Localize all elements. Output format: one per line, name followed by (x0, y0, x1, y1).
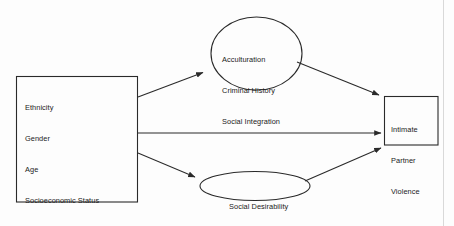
outcome-item-partner: Partner (391, 156, 420, 166)
mediator-top-item-criminal-history: Criminal History (222, 86, 280, 96)
mediator-bottom-label-group: Social Desirability (229, 181, 288, 226)
predictor-item-gender: Gender (25, 134, 106, 144)
diagram-canvas: Ethnicity Gender Age Socioeconomic Statu… (0, 0, 454, 226)
predictor-item-ethnicity: Ethnicity (25, 103, 106, 113)
outcome-item-violence: Violence (391, 187, 420, 197)
predictor-item-socioeconomic-status: Socioeconomic Status (25, 196, 106, 206)
mediator-top-item-social-integration: Social Integration (222, 117, 280, 127)
outcome-item-intimate: Intimate (391, 125, 420, 135)
arrow-predictors-to-bottom-mediator (138, 153, 195, 177)
arrow-predictors-to-top-mediator (138, 73, 203, 98)
arrow-top-mediator-to-outcome (297, 62, 379, 95)
outcome-box-label-group: Intimate Partner Violence (391, 104, 420, 218)
predictor-item-age: Age (25, 165, 106, 175)
mediator-bottom-item-social-desirability: Social Desirability (229, 202, 288, 212)
mediator-top-item-acculturation: Acculturation (222, 55, 280, 65)
predictor-box-label-group: Ethnicity Gender Age Socioeconomic Statu… (25, 82, 106, 226)
arrow-bottom-mediator-to-outcome (305, 148, 381, 181)
mediator-top-label-group: Acculturation Criminal History Social In… (222, 34, 280, 148)
